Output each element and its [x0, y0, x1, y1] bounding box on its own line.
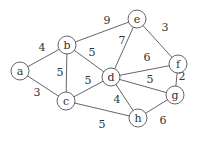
node-f: f [169, 55, 187, 73]
node-c: c [57, 92, 75, 110]
edge-weight-e-f: 3 [162, 21, 169, 34]
graph-edges [20, 19, 178, 118]
edge-weight-d-g: 5 [147, 73, 154, 86]
node-label: b [63, 39, 70, 52]
edge-weight-a-b: 4 [39, 41, 46, 54]
edge-c-h [66, 101, 138, 118]
edge-weight-d-h: 4 [114, 93, 121, 106]
edge-weight-b-e: 9 [104, 14, 111, 27]
node-label: d [107, 71, 114, 84]
edge-weight-b-d: 5 [89, 46, 96, 59]
node-b: b [58, 36, 76, 54]
edge-b-e [67, 19, 137, 45]
node-g: g [166, 86, 184, 104]
weighted-graph-diagram: 43559557654326 abcdefgh [0, 0, 198, 143]
node-a: a [11, 62, 29, 80]
node-label: g [171, 89, 178, 102]
edge-weight-g-h: 6 [160, 114, 167, 127]
node-h: h [129, 109, 147, 127]
edge-weight-c-d: 5 [85, 74, 92, 87]
edge-weight-b-c: 5 [57, 66, 64, 79]
edge-weight-c-h: 5 [99, 118, 106, 131]
edge-weight-d-e: 7 [119, 34, 126, 47]
edge-d-e [111, 19, 137, 77]
node-label: e [134, 13, 141, 26]
node-e: e [128, 10, 146, 28]
edge-d-f [111, 64, 178, 77]
node-label: c [63, 95, 69, 108]
edge-weight-d-f: 6 [144, 51, 151, 64]
node-label: h [134, 112, 141, 125]
node-label: a [17, 65, 24, 78]
edge-weight-a-c: 3 [34, 86, 41, 99]
node-d: d [102, 68, 120, 86]
